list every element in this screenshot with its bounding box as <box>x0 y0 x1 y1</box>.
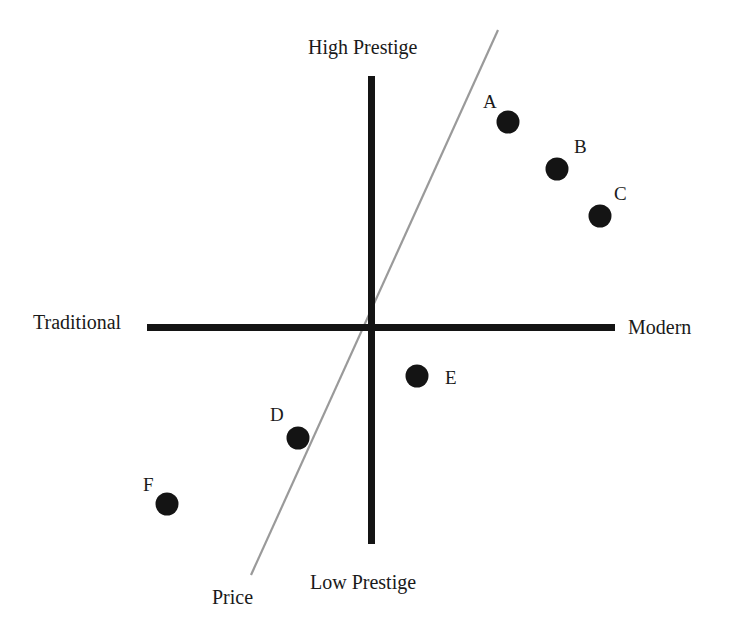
data-point-b <box>546 158 569 181</box>
data-point-a <box>497 111 520 134</box>
data-point-e <box>406 365 429 388</box>
point-label-a: A <box>483 92 497 111</box>
perceptual-map: High Prestige Low Prestige Traditional M… <box>0 0 731 629</box>
data-point-f <box>156 493 179 516</box>
point-label-b: B <box>574 137 587 156</box>
point-label-c: C <box>614 184 627 203</box>
axis-label-modern: Modern <box>628 317 691 337</box>
axis-label-high-prestige: High Prestige <box>308 37 417 57</box>
data-point-c <box>589 205 612 228</box>
point-label-d: D <box>270 405 284 424</box>
axis-label-traditional: Traditional <box>33 312 121 332</box>
point-label-e: E <box>445 368 457 387</box>
data-point-d <box>287 427 310 450</box>
point-label-f: F <box>143 475 154 494</box>
axis-label-low-prestige: Low Prestige <box>310 572 416 592</box>
horizontal-axis-style <box>147 324 615 331</box>
price-line-label: Price <box>212 587 253 607</box>
vertical-axis-prestige <box>368 76 375 544</box>
